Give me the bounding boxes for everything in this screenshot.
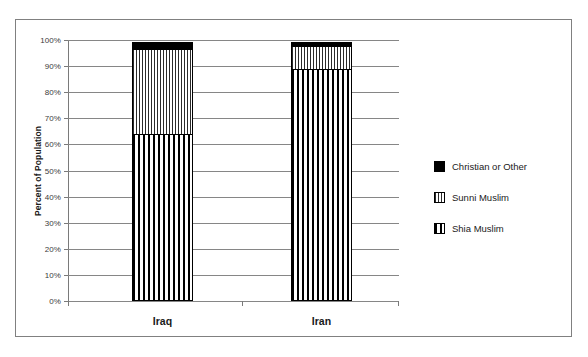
legend-label: Shia Muslim [452,223,504,234]
y-tick-mark [64,197,68,198]
y-axis-title-label: Percent of Population [33,126,43,216]
legend-label: Christian or Other [452,161,527,172]
y-tick-mark [64,223,68,224]
y-tick-label: 100% [40,36,61,45]
y-tick-label: 20% [45,244,61,253]
y-tick-mark [64,275,68,276]
y-tick-label: 0% [49,297,61,306]
bar-segment[interactable] [291,46,352,69]
y-tick-label: 60% [45,140,61,149]
x-tick-mark [68,301,69,306]
x-tick-mark [398,301,399,306]
y-tick-mark [64,92,68,93]
bar-iraq[interactable] [132,42,193,301]
y-tick-label: 70% [45,114,61,123]
chart-legend: Christian or OtherSunni MuslimShia Musli… [434,160,527,253]
legend-label: Sunni Muslim [452,192,509,203]
legend-swatch-icon [434,223,445,234]
bar-segment[interactable] [132,134,193,301]
y-axis-title: Percent of Population [30,40,46,301]
y-tick-mark [64,40,68,41]
y-tick-mark [64,171,68,172]
chart-frame: Percent of Population 100%90%80%70%60%50… [15,19,572,337]
legend-swatch-icon [434,192,445,203]
bar-iran[interactable] [291,42,352,301]
gridline [68,40,399,41]
legend-item[interactable]: Sunni Muslim [434,191,527,203]
plot-area: 100%90%80%70%60%50%40%30%20%10%0% IraqIr… [68,40,399,301]
gridline [68,301,399,302]
y-tick-mark [64,66,68,67]
legend-item[interactable]: Shia Muslim [434,222,527,234]
y-tick-label: 80% [45,88,61,97]
y-tick-label: 10% [45,270,61,279]
y-tick-label: 30% [45,218,61,227]
x-tick-label-iran: Iran [262,315,382,327]
legend-item[interactable]: Christian or Other [434,160,527,172]
bar-segment[interactable] [132,49,193,135]
y-tick-label: 40% [45,192,61,201]
y-tick-mark [64,249,68,250]
legend-swatch-icon [434,161,445,172]
x-tick-label-iraq: Iraq [103,315,223,327]
bar-segment[interactable] [291,69,352,301]
x-tick-mark [242,301,243,306]
y-tick-mark [64,118,68,119]
y-tick-label: 50% [45,166,61,175]
y-tick-label: 90% [45,62,61,71]
y-tick-mark [64,144,68,145]
